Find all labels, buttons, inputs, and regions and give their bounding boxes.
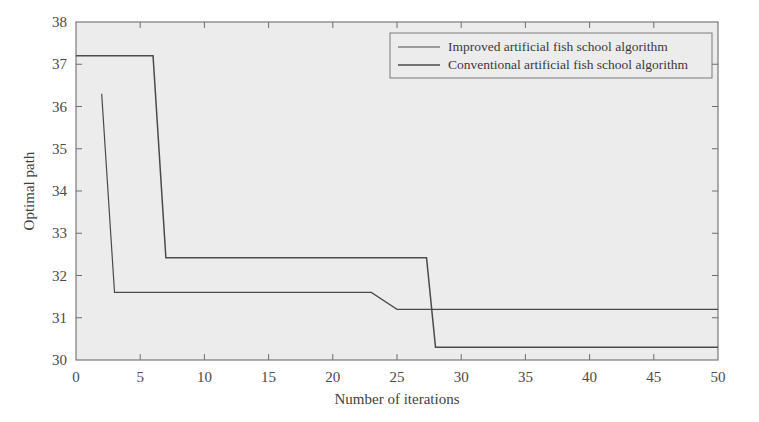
y-tick-label: 30 [52, 352, 67, 368]
chart-legend: Improved artificial fish school algorith… [390, 33, 712, 78]
x-tick-label: 35 [518, 369, 533, 385]
x-tick-label: 0 [72, 369, 80, 385]
y-tick-label: 32 [52, 268, 67, 284]
legend-label-conventional: Conventional artificial fish school algo… [448, 57, 688, 72]
x-tick-label: 45 [646, 369, 661, 385]
y-tick-label: 36 [52, 99, 68, 115]
y-tick-label: 35 [52, 141, 67, 157]
x-tick-label: 40 [582, 369, 597, 385]
y-tick-label: 38 [52, 14, 67, 30]
y-axis-title: Optimal path [21, 151, 37, 230]
x-tick-label: 10 [197, 369, 212, 385]
chart-svg: 303132333435363738 05101520253035404550 … [0, 0, 759, 422]
chart-figure: 303132333435363738 05101520253035404550 … [0, 0, 759, 422]
x-tick-label: 20 [325, 369, 340, 385]
y-axis-tick-labels: 303132333435363738 [52, 14, 68, 368]
y-tick-label: 33 [52, 225, 67, 241]
y-tick-label: 34 [52, 183, 68, 199]
y-tick-label: 37 [52, 56, 68, 72]
x-tick-label: 50 [711, 369, 726, 385]
x-tick-label: 5 [136, 369, 144, 385]
x-tick-label: 25 [390, 369, 405, 385]
x-tick-label: 30 [454, 369, 469, 385]
x-axis-title: Number of iterations [335, 391, 460, 407]
y-tick-label: 31 [52, 310, 67, 326]
legend-label-improved: Improved artificial fish school algorith… [448, 39, 668, 54]
x-tick-label: 15 [261, 369, 276, 385]
